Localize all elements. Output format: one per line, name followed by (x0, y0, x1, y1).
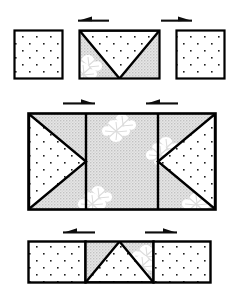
panel-top-right (177, 31, 225, 79)
panel-bottom-right (154, 242, 211, 283)
diagram-canvas (0, 0, 239, 295)
stage-2-open (28, 99, 216, 215)
panel-bottom-center (85, 241, 160, 283)
folding-diagram (0, 0, 239, 295)
panel-top-left (15, 31, 63, 79)
panel-top-center (69, 30, 160, 85)
panel-bottom-left (29, 242, 86, 283)
